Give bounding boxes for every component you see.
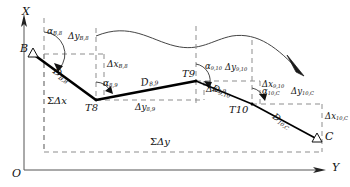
delta-y-label-910: Δy9,10 (225, 63, 247, 72)
figure-canvas: X Y O B T8 T9 T10 C αB,8 ΔyB,8 ΔxB,8 DB,… (0, 0, 350, 187)
station-label-B: B (20, 43, 28, 54)
station-marker-T8 (95, 99, 98, 102)
traverse-polyline-group (33, 54, 317, 139)
azimuth-label-10C: α10,C (262, 87, 280, 96)
delta-y-label-89: Δy8,9 (135, 103, 155, 113)
delta-y-label-10C: Δy10,C (291, 87, 314, 96)
station-marker-T9 (195, 80, 198, 83)
station-marker-T10 (251, 103, 254, 106)
axis-group (21, 14, 326, 173)
delta-y-subscript-10C: 10,C (302, 90, 314, 96)
station-label-C: C (325, 131, 333, 142)
azimuth-subscript-B8: B,8 (53, 30, 62, 36)
y-axis-label: Y (332, 162, 339, 173)
station-label-T9: T9 (182, 69, 195, 79)
delta-y-symbol-89: Δy (135, 102, 147, 112)
delta-y-symbol-910: Δy (225, 62, 236, 72)
delta-x-label-10C: Δx10,C (325, 112, 348, 121)
delta-x-symbol-B8: Δx (107, 59, 119, 69)
station-marker-B (28, 48, 38, 57)
azimuth-subscript-910: 9,10 (211, 65, 222, 71)
delta-x-symbol-10C: Δx (325, 111, 336, 121)
delta-y-subscript-B8: B,8 (80, 35, 89, 41)
sum-delta-y-label: ΣΔy (150, 137, 170, 147)
origin-label: O (12, 168, 21, 179)
sum-delta-x-text: Δx (54, 95, 67, 106)
delta-x-label-B8: ΔxB,8 (107, 60, 128, 70)
station-label-T10: T10 (229, 105, 248, 115)
x-axis-label: X (22, 6, 30, 17)
delta-y-subscript-89: 8,9 (147, 106, 156, 112)
azimuth-subscript-89: 8,9 (109, 82, 118, 88)
azimuth-label-910: α9,10 (205, 62, 222, 71)
station-label-T8: T8 (85, 103, 98, 113)
distance-subscript-89: 8,9 (148, 79, 159, 87)
sum-delta-y-text: Δy (157, 136, 170, 147)
delta-x-subscript-10C: 10,C (336, 115, 348, 121)
delta-y-label-B8: ΔyB,8 (68, 32, 89, 42)
azimuth-label-B8: αB,8 (47, 27, 62, 37)
azimuth-label-89: α8,9 (103, 79, 118, 89)
azimuth-subscript-10C: 10,C (268, 90, 280, 96)
delta-y-subscript-910: 9,10 (236, 66, 247, 72)
delta-x-subscript-B8: B,8 (119, 63, 128, 69)
delta-y-symbol-B8: Δy (68, 31, 80, 41)
delta-y-symbol-10C: Δy (291, 86, 302, 96)
sum-delta-x-label: ΣΔx (47, 96, 67, 106)
river-direction-arrow-icon (287, 55, 304, 76)
